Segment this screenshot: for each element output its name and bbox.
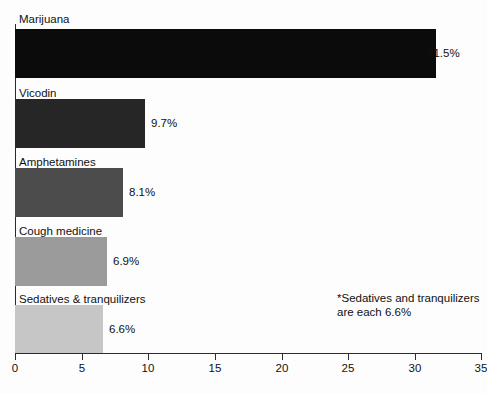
x-axis-tick <box>215 354 216 360</box>
x-axis-tick <box>282 354 283 360</box>
x-axis-tick <box>481 354 482 360</box>
bar-value-label: 6.6% <box>109 323 135 336</box>
x-axis-tick-label: 35 <box>475 362 487 375</box>
x-axis-line <box>15 353 482 354</box>
bar-value-label: 6.9% <box>113 255 139 268</box>
x-axis-tick-label: 30 <box>409 362 422 375</box>
x-axis-tick <box>82 354 83 360</box>
x-axis-tick <box>148 354 149 360</box>
bar-chart: Marijuana 31.5% Vicodin 9.7% Amphetamine… <box>0 0 487 394</box>
x-axis-tick-label: 10 <box>142 362 155 375</box>
bar-sedatives-tranquilizers <box>15 305 103 354</box>
x-axis-tick-label: 20 <box>276 362 289 375</box>
bar-amphetamines <box>15 168 123 217</box>
x-axis-tick-label: 5 <box>79 362 85 375</box>
x-axis-tick-label: 25 <box>342 362 355 375</box>
bar-value-label: 31.5% <box>427 47 460 60</box>
x-axis-tick <box>415 354 416 360</box>
bar-cough-medicine <box>15 237 107 286</box>
bar-category-label: Marijuana <box>19 13 70 26</box>
x-axis-tick <box>348 354 349 360</box>
bar-marijuana <box>15 29 436 78</box>
x-axis-tick-label: 0 <box>12 362 18 375</box>
bar-value-label: 8.1% <box>129 186 155 199</box>
bar-vicodin <box>15 99 145 148</box>
chart-footnote: *Sedatives and tranquilizers are each 6.… <box>337 291 480 319</box>
x-axis-tick <box>15 354 16 360</box>
x-axis-tick-label: 15 <box>209 362 222 375</box>
bar-value-label: 9.7% <box>151 117 177 130</box>
